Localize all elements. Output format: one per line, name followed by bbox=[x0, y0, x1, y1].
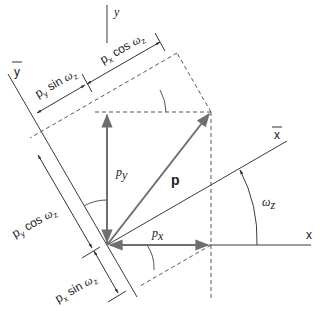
svg-text:y: y bbox=[14, 65, 20, 79]
angle-arc-py bbox=[84, 200, 107, 206]
x-axis-label: x bbox=[306, 228, 312, 242]
vector-p-label: p bbox=[171, 172, 180, 188]
dim-py-sin-label: py sin ωz bbox=[33, 66, 80, 102]
x-bar-axis-line bbox=[107, 141, 287, 245]
dim-py-cos-label: py cos ωz bbox=[10, 204, 60, 242]
dimension-lines bbox=[37, 33, 165, 302]
dim-px-sin-label: px sin ωz bbox=[53, 271, 100, 307]
y-bar-label: y bbox=[12, 62, 22, 79]
y-bar-axis-line bbox=[8, 74, 137, 297]
x-bar-label: x bbox=[272, 127, 282, 142]
rotation-diagram: y x y x p py px ωz px cos ωz py sin ωz p… bbox=[0, 0, 320, 311]
omega-z-label: ωz bbox=[262, 195, 275, 212]
angle-arc-px bbox=[147, 245, 154, 270]
angle-arc-top bbox=[160, 90, 166, 112]
diagram-svg: y x y x p py px ωz px cos ωz py sin ωz p… bbox=[0, 0, 320, 311]
svg-text:x: x bbox=[274, 128, 280, 142]
py-label: py bbox=[115, 165, 128, 182]
px-label: px bbox=[151, 226, 164, 243]
omega-arc bbox=[240, 170, 257, 245]
dim-px-cos-label: px cos ωz bbox=[98, 30, 148, 68]
y-axis-label: y bbox=[113, 5, 120, 19]
